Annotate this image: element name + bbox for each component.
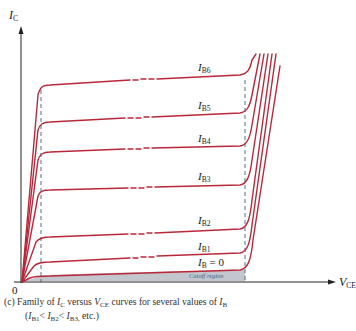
label-ib6: IB6 [198,61,210,75]
figure-caption-line2: (IB1< IB2< IB3, etc.) [25,310,99,323]
origin-label: 0 [12,284,18,296]
label-ib4: IB4 [198,132,210,146]
cutoff-region-label: Cutoff region [189,272,224,279]
x-axis-arrow-icon [328,280,336,285]
transistor-characteristic-chart [0,0,356,331]
curve-ib3 [22,54,268,282]
label-ib2: IB2 [198,214,210,228]
curve-ib5 [22,54,260,282]
curve-ib0 [22,66,280,282]
curve-ib2 [22,54,272,282]
x-axis-label: VCE [339,275,356,290]
curve-ib4 [22,54,264,282]
curve-ib1 [22,54,276,282]
figure-caption-line1: (c) Family of IC versus VCE curves for s… [4,296,227,309]
curve-ib6 [22,54,256,282]
y-axis-arrow-icon [19,26,24,34]
label-ib3: IB3 [198,170,210,184]
label-ib1: IB1 [198,240,210,254]
label-ib0: IB = 0 [198,256,224,270]
y-axis-label: IC [9,8,18,23]
label-ib5: IB5 [198,99,210,113]
